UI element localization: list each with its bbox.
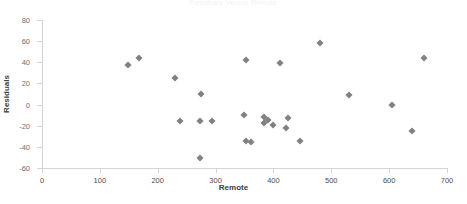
plot-area: -60-40-20020406080 010020030040050060070… [42, 20, 447, 168]
x-axis-tick [447, 168, 448, 173]
data-point [269, 121, 276, 128]
data-point [125, 62, 132, 69]
x-axis-line [42, 168, 448, 169]
data-point [196, 118, 203, 125]
data-point [421, 55, 428, 62]
data-point [176, 118, 183, 125]
data-point [172, 75, 179, 82]
x-axis-tick [42, 168, 43, 173]
y-axis-tick-label: 80 [22, 16, 30, 25]
x-axis-tick [100, 168, 101, 173]
y-axis-tick-label: -20 [19, 121, 30, 130]
data-point [346, 92, 353, 99]
x-axis-tick-label: 600 [383, 176, 396, 185]
y-axis-tick: 60 [37, 41, 42, 42]
x-axis-tick-label: 100 [94, 176, 107, 185]
y-axis-tick: 0 [37, 105, 42, 106]
data-point [296, 137, 303, 144]
x-axis-tick [216, 168, 217, 173]
x-axis-tick [331, 168, 332, 173]
y-axis-tick-label: 20 [22, 79, 30, 88]
x-axis-tick [273, 168, 274, 173]
x-axis-tick [158, 168, 159, 173]
y-axis-tick: 20 [37, 83, 42, 84]
y-axis-tick-label: -40 [19, 142, 30, 151]
y-axis-label: Residuals [2, 75, 11, 113]
data-point [388, 101, 395, 108]
data-point [196, 155, 203, 162]
y-axis-tick-label: 0 [26, 100, 30, 109]
data-point [243, 57, 250, 64]
data-point [408, 127, 415, 134]
chart-title: Residuals Versus Remote [0, 0, 467, 6]
y-axis-tick: 80 [37, 20, 42, 21]
data-point [209, 118, 216, 125]
y-axis-tick: 40 [37, 62, 42, 63]
y-axis-tick-label: -60 [19, 164, 30, 173]
x-axis-label: Remote [0, 183, 467, 192]
y-axis-tick-label: 60 [22, 37, 30, 46]
scatter-chart: Residuals Versus Remote Residuals Remote… [0, 0, 467, 204]
data-point [136, 55, 143, 62]
x-axis-tick-label: 500 [325, 176, 338, 185]
data-point [284, 115, 291, 122]
data-point [282, 124, 289, 131]
data-point [277, 60, 284, 67]
data-point [198, 90, 205, 97]
y-axis-tick: -40 [37, 147, 42, 148]
x-axis-tick-label: 400 [267, 176, 280, 185]
x-axis-tick-label: 300 [209, 176, 222, 185]
x-axis-tick-label: 200 [151, 176, 164, 185]
x-axis-tick [389, 168, 390, 173]
data-point [316, 40, 323, 47]
data-point [240, 112, 247, 119]
x-axis-tick-label: 0 [40, 176, 44, 185]
y-axis-tick: -20 [37, 126, 42, 127]
y-axis-tick-label: 40 [22, 58, 30, 67]
x-axis-tick-label: 700 [441, 176, 454, 185]
